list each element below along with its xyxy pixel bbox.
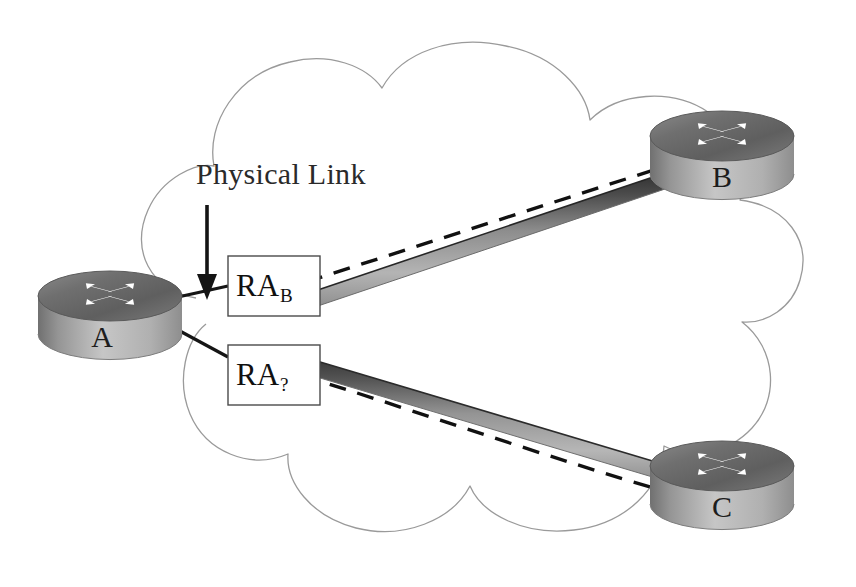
ra-unknown-subscript: ? [279,374,288,395]
annotation-arrow [197,205,217,300]
physical-link-a-c [300,356,686,487]
ra-unknown-label: RA? [236,357,289,396]
ra-b-label: RAB [236,268,293,307]
router-b-label: B [692,160,752,194]
router-a-connectors [178,286,228,357]
ra-b-subscript: B [279,285,293,306]
ra-unknown-base: RA [236,357,279,392]
logical-adjacency-a-c [302,376,668,492]
ra-b-base: RA [236,268,279,303]
router-a-label: A [72,320,132,354]
router-c-label: C [692,490,752,524]
physical-link-annotation-label: Physical Link [196,157,366,191]
diagram-canvas: Physical Link RAB RA? A B C [0,0,856,587]
